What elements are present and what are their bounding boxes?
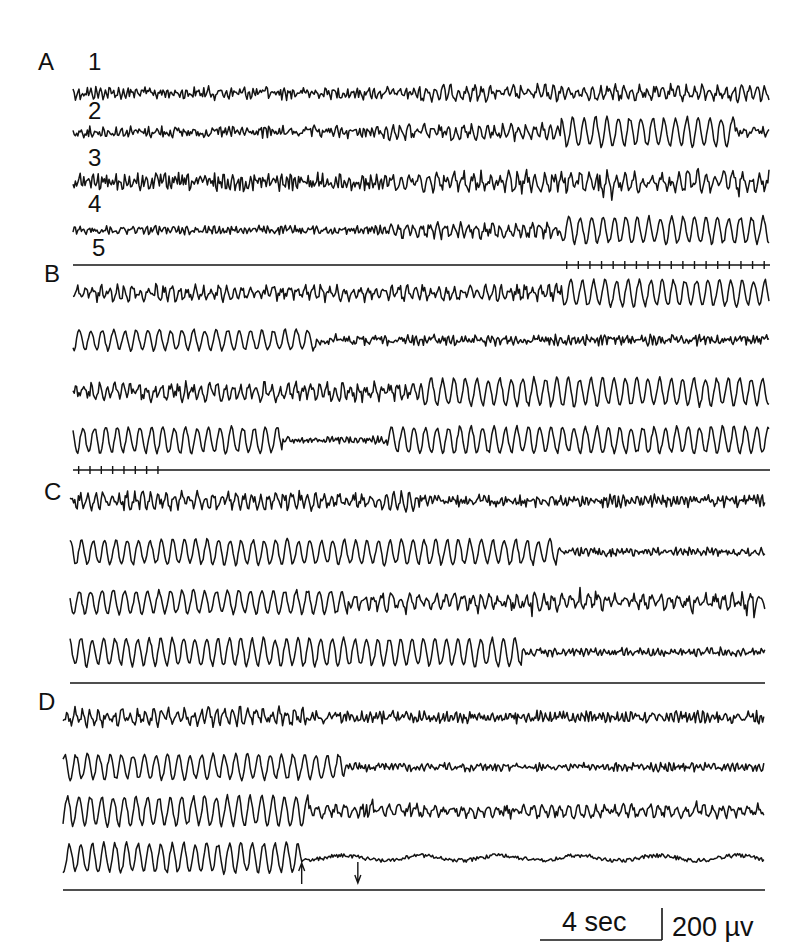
eeg-trace <box>70 637 765 667</box>
panel-c: C <box>44 478 765 683</box>
eeg-trace <box>70 587 765 617</box>
channel-label: 1 <box>88 48 101 75</box>
eeg-figure: A12345BCD 4 sec 200 µv <box>0 0 810 951</box>
channel-label: 4 <box>88 190 101 217</box>
eeg-trace <box>73 377 769 408</box>
time-scale-label: 4 sec <box>562 907 627 937</box>
panel-label: B <box>44 260 60 287</box>
scale-bar: 4 sec 200 µv <box>540 907 754 942</box>
eeg-trace <box>73 279 769 307</box>
eeg-trace <box>63 753 764 781</box>
panel-d: D <box>38 688 765 890</box>
voltage-scale-label: 200 µv <box>672 912 754 942</box>
eeg-trace <box>73 426 769 454</box>
panel-b: B <box>44 260 770 474</box>
eeg-trace <box>63 795 764 828</box>
eeg-trace <box>73 116 769 148</box>
panel-label: D <box>38 688 55 715</box>
eeg-trace <box>73 329 769 351</box>
panel-label: C <box>44 478 61 505</box>
panel-label: A <box>38 48 54 75</box>
eeg-trace <box>73 84 769 103</box>
eeg-trace <box>63 842 764 875</box>
panel-a: A12345 <box>38 48 770 269</box>
channel-label: 3 <box>88 144 101 171</box>
eeg-trace <box>73 215 769 244</box>
eeg-trace <box>73 169 769 201</box>
channel-label: 5 <box>92 234 105 261</box>
eeg-trace <box>63 706 764 728</box>
channel-label: 2 <box>88 97 101 124</box>
arrow-up-icon <box>299 863 305 884</box>
eeg-trace <box>70 491 765 513</box>
arrow-down-icon <box>355 862 361 883</box>
eeg-trace <box>70 538 765 566</box>
